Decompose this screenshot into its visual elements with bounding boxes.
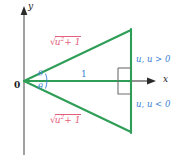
lower-angle-arc xyxy=(46,81,48,89)
figure-container: y x 0 √u2+ 1 √u2+ 1 1 u, u > 0 u, u < 0 … xyxy=(0,0,177,158)
upper-angle-arc xyxy=(46,74,48,82)
upper-hypotenuse-segment xyxy=(24,30,131,81)
diagram-canvas xyxy=(0,0,177,158)
lower-hypotenuse-segment xyxy=(24,81,131,132)
y-axis-arrowhead xyxy=(21,6,28,15)
x-axis-arrowhead xyxy=(147,78,156,85)
